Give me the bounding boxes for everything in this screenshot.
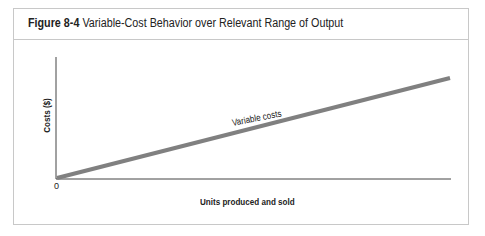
y-axis-label: Costs ($) xyxy=(41,90,52,141)
variable-cost-line xyxy=(57,78,450,178)
origin-label: 0 xyxy=(54,181,59,191)
x-axis-label: Units produced and sold xyxy=(200,196,295,207)
